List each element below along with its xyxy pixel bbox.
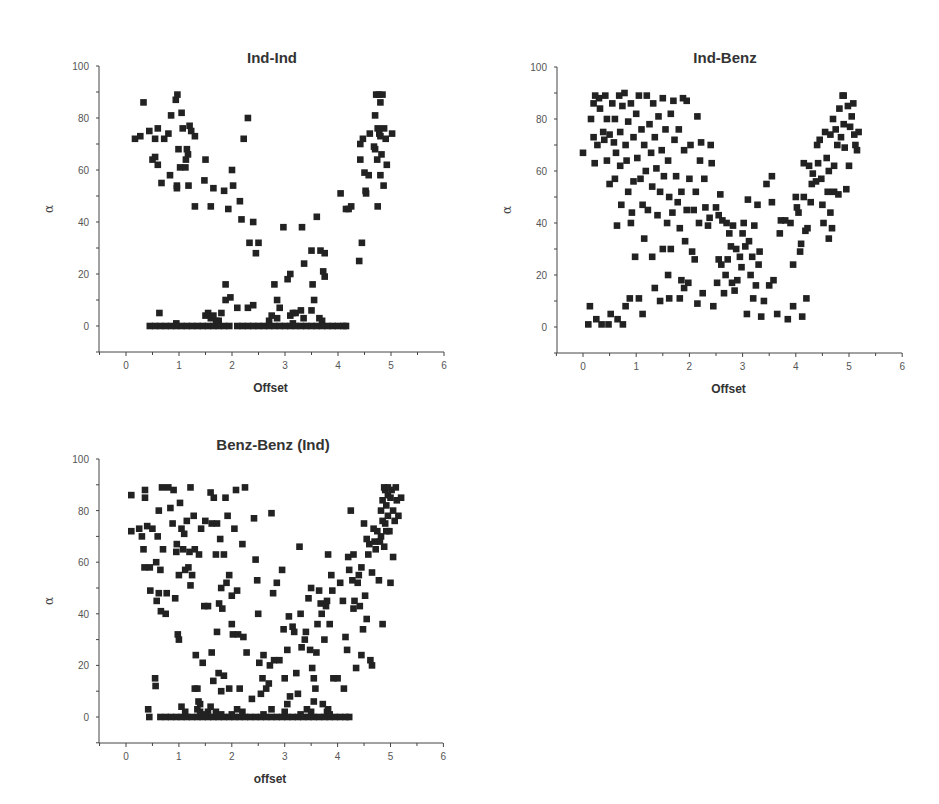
data-point-marker xyxy=(311,675,318,682)
x-axis-label: Offset xyxy=(711,382,746,396)
x-tick-label: 3 xyxy=(740,361,746,372)
data-point-marker xyxy=(832,126,839,133)
data-point-marker xyxy=(690,207,697,214)
data-point-marker xyxy=(798,241,805,248)
data-point-marker xyxy=(590,134,597,141)
data-point-marker xyxy=(751,222,758,229)
x-tick-label: 2 xyxy=(229,360,235,371)
data-point-marker xyxy=(187,582,194,589)
data-point-marker xyxy=(158,180,165,187)
y-tick-label: 80 xyxy=(78,506,90,517)
data-point-marker xyxy=(182,164,189,171)
data-point-marker xyxy=(637,176,644,183)
data-point-marker xyxy=(155,125,162,132)
data-point-marker xyxy=(178,110,185,117)
x-tick-label: 6 xyxy=(441,360,447,371)
data-point-marker xyxy=(655,113,662,120)
data-point-marker xyxy=(683,207,690,214)
data-point-marker xyxy=(284,701,291,708)
data-point-marker xyxy=(152,136,159,143)
data-point-marker xyxy=(625,189,632,196)
y-tick-label: 0 xyxy=(83,321,89,332)
data-point-marker xyxy=(390,554,397,561)
data-point-marker xyxy=(268,510,275,517)
data-point-marker xyxy=(280,626,287,633)
data-point-marker xyxy=(234,305,241,312)
data-point-marker xyxy=(605,321,612,328)
data-point-marker xyxy=(168,112,175,119)
data-point-marker xyxy=(594,142,601,149)
data-point-marker xyxy=(744,311,751,318)
data-point-marker xyxy=(266,680,273,687)
data-point-marker xyxy=(250,219,257,226)
y-tick-label: 0 xyxy=(541,322,547,333)
data-point-marker xyxy=(398,494,405,501)
data-point-marker xyxy=(769,173,776,180)
data-point-marker xyxy=(668,246,675,253)
data-point-marker xyxy=(221,188,228,195)
data-point-marker xyxy=(754,202,761,209)
data-point-marker xyxy=(630,134,637,141)
data-point-marker xyxy=(713,204,720,211)
data-point-marker xyxy=(628,220,635,227)
data-point-marker xyxy=(685,280,692,287)
data-point-marker xyxy=(185,151,192,158)
data-point-marker xyxy=(160,546,167,553)
data-point-marker xyxy=(612,176,619,183)
x-tick-label: 5 xyxy=(846,361,852,372)
data-point-marker xyxy=(192,133,199,140)
data-point-marker xyxy=(238,216,245,223)
data-point-marker xyxy=(660,95,667,102)
data-point-marker xyxy=(638,126,645,133)
data-point-marker xyxy=(641,142,648,149)
data-point-marker xyxy=(309,665,316,672)
x-tick-label: 0 xyxy=(123,751,129,762)
data-point-marker xyxy=(142,494,149,501)
data-point-marker xyxy=(308,247,315,254)
data-point-marker xyxy=(309,281,316,288)
data-point-marker xyxy=(154,533,161,540)
data-point-marker xyxy=(301,260,308,267)
x-tick-label: 2 xyxy=(687,361,693,372)
data-point-marker xyxy=(205,603,212,610)
data-point-marker xyxy=(297,611,304,618)
data-point-marker xyxy=(377,99,384,106)
data-point-marker xyxy=(291,629,298,636)
data-point-marker xyxy=(795,209,802,216)
x-axis-label: offset xyxy=(254,772,287,786)
x-tick-label: 1 xyxy=(176,751,182,762)
y-tick-label: 20 xyxy=(78,660,90,671)
data-point-marker xyxy=(255,240,262,247)
data-point-marker xyxy=(658,147,665,154)
chart-title: Benz-Benz (Ind) xyxy=(216,436,329,453)
data-point-marker xyxy=(350,551,357,558)
data-point-marker xyxy=(251,515,258,522)
data-point-marker xyxy=(167,505,174,512)
data-point-marker xyxy=(661,173,668,180)
data-point-marker xyxy=(698,139,705,146)
data-point-marker xyxy=(604,157,611,164)
data-point-marker xyxy=(361,520,368,527)
data-point-marker xyxy=(790,303,797,310)
data-point-marker xyxy=(815,160,822,167)
data-point-marker xyxy=(155,162,162,169)
data-point-marker xyxy=(739,230,746,237)
data-point-marker xyxy=(617,163,624,170)
data-point-marker xyxy=(142,487,149,494)
data-point-marker xyxy=(674,199,681,206)
data-point-marker xyxy=(389,130,396,137)
data-point-marker xyxy=(699,290,706,297)
data-point-marker xyxy=(346,714,353,721)
data-point-marker xyxy=(691,256,698,263)
data-point-marker xyxy=(312,685,319,692)
data-point-marker xyxy=(666,295,673,302)
data-point-marker xyxy=(653,165,660,172)
data-point-marker xyxy=(770,277,777,284)
y-tick-label: 40 xyxy=(78,217,90,228)
data-point-marker xyxy=(201,177,208,184)
y-tick-label: 100 xyxy=(72,454,89,465)
data-point-marker xyxy=(835,191,842,198)
data-point-marker xyxy=(591,160,598,167)
data-point-marker xyxy=(657,189,664,196)
data-point-marker xyxy=(381,125,388,132)
